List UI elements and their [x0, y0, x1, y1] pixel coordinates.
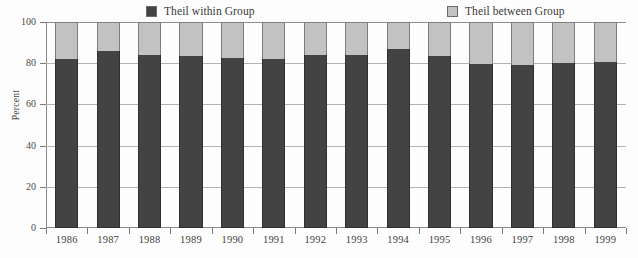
bar-stack [345, 22, 368, 228]
bar-segment-theil-between-group [387, 22, 410, 49]
bar-segment-theil-within-group [304, 55, 327, 228]
y-tick-label: 60 [6, 99, 36, 109]
bar-segment-theil-between-group [428, 22, 451, 56]
bar-stack [469, 22, 492, 228]
x-tick-label: 1999 [582, 234, 628, 246]
y-tick-label: 40 [6, 141, 36, 151]
bar-group [221, 22, 244, 228]
bar-segment-theil-within-group [97, 51, 120, 228]
legend-swatch-icon-within [146, 6, 157, 17]
x-tick-label: 1987 [85, 234, 131, 246]
x-tick-label: 1992 [292, 234, 338, 246]
x-tick-label: 1998 [541, 234, 587, 246]
bar-segment-theil-between-group [345, 22, 368, 55]
bar-stack [304, 22, 327, 228]
bar-segment-theil-within-group [138, 55, 161, 228]
bar-segment-theil-between-group [97, 22, 120, 51]
bar-segment-theil-between-group [304, 22, 327, 55]
bar-group [428, 22, 451, 228]
x-tick-label: 1986 [44, 234, 90, 246]
legend-item-theil-between-group: Theil between Group [447, 2, 565, 20]
bar-segment-theil-within-group [221, 58, 244, 228]
bar-group [469, 22, 492, 228]
bar-group [387, 22, 410, 228]
y-tick-label: 100 [6, 17, 36, 27]
legend-label-between: Theil between Group [465, 5, 565, 17]
bar-group [179, 22, 202, 228]
bar-segment-theil-between-group [55, 22, 78, 59]
x-tick-label: 1991 [251, 234, 297, 246]
plot-area: 020406080100 198619871988198919901991199… [46, 22, 626, 228]
bar-segment-theil-between-group [221, 22, 244, 58]
bar-segment-theil-between-group [179, 22, 202, 56]
bar-group [262, 22, 285, 228]
y-tick-label: 0 [6, 223, 36, 233]
legend-label-within: Theil within Group [164, 5, 255, 17]
bar-segment-theil-within-group [179, 56, 202, 228]
bar-stack [428, 22, 451, 228]
bar-segment-theil-within-group [55, 59, 78, 228]
bar-segment-theil-between-group [511, 22, 534, 65]
legend-swatch-icon-between [447, 6, 458, 17]
bar-segment-theil-within-group [262, 59, 285, 228]
legend-item-theil-within-group: Theil within Group [146, 2, 255, 20]
bar-segment-theil-within-group [511, 65, 534, 228]
bar-segment-theil-within-group [594, 62, 617, 228]
bar-stack [55, 22, 78, 228]
bar-stack [179, 22, 202, 228]
bar-group [594, 22, 617, 228]
x-tick-label: 1996 [458, 234, 504, 246]
x-tick-label: 1993 [334, 234, 380, 246]
x-tick-label: 1990 [209, 234, 255, 246]
bar-stack [594, 22, 617, 228]
bar-group [138, 22, 161, 228]
x-tick-label: 1994 [375, 234, 421, 246]
bar-segment-theil-within-group [387, 49, 410, 228]
bar-stack [552, 22, 575, 228]
stacked-bar-chart-figure: Theil within Group Theil between Group P… [0, 0, 638, 258]
bar-group [55, 22, 78, 228]
bar-stack [221, 22, 244, 228]
y-tick-label: 80 [6, 58, 36, 68]
bar-segment-theil-between-group [262, 22, 285, 59]
bar-stack [511, 22, 534, 228]
bar-group [97, 22, 120, 228]
bar-series-container [46, 22, 626, 228]
x-tick-label: 1995 [417, 234, 463, 246]
bar-segment-theil-between-group [552, 22, 575, 63]
bar-group [345, 22, 368, 228]
bar-segment-theil-between-group [138, 22, 161, 55]
chart-legend: Theil within Group Theil between Group [0, 2, 638, 22]
x-tick-label: 1989 [168, 234, 214, 246]
bar-stack [262, 22, 285, 228]
bar-segment-theil-within-group [345, 55, 368, 228]
x-tick-label: 1997 [499, 234, 545, 246]
bar-group [304, 22, 327, 228]
bar-segment-theil-within-group [469, 64, 492, 228]
x-tick-label: 1988 [127, 234, 173, 246]
bar-stack [138, 22, 161, 228]
bar-segment-theil-between-group [594, 22, 617, 62]
bar-group [552, 22, 575, 228]
bar-segment-theil-within-group [428, 56, 451, 228]
bar-group [511, 22, 534, 228]
bar-segment-theil-within-group [552, 63, 575, 228]
bar-segment-theil-between-group [469, 22, 492, 64]
y-tick-label: 20 [6, 182, 36, 192]
bar-stack [97, 22, 120, 228]
bar-stack [387, 22, 410, 228]
